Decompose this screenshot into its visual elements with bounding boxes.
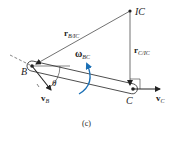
right-angle-marker xyxy=(130,79,140,89)
dashed-extension-line xyxy=(10,55,30,65)
label-theta: θ xyxy=(52,78,57,88)
rigid-body-diagram: IC B C rB/IC rC/IC ωBC θ vB vC (c) xyxy=(0,0,177,143)
label-v-c: vC xyxy=(156,93,166,104)
label-c: C xyxy=(126,95,133,106)
point-ic xyxy=(128,9,131,12)
v-b-tick xyxy=(37,84,39,87)
point-c xyxy=(131,87,135,91)
omega-arc-arrow xyxy=(79,64,90,94)
label-r-c-ic: rC/IC xyxy=(134,45,151,56)
label-b: B xyxy=(21,66,27,77)
label-r-b-ic: rB/IC xyxy=(64,28,80,39)
figure-caption: (c) xyxy=(82,119,91,128)
point-b xyxy=(30,64,34,68)
label-v-b: vB xyxy=(41,93,50,104)
v-b-arrow xyxy=(32,66,51,90)
link-bc xyxy=(26,60,138,95)
label-ic: IC xyxy=(134,6,145,17)
label-omega-bc: ωBC xyxy=(75,48,91,60)
